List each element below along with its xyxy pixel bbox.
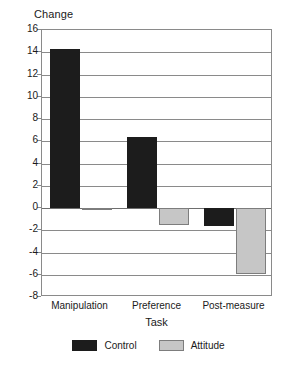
y-axis-tick-label: -8	[4, 291, 38, 301]
y-axis-title: Change	[34, 8, 73, 20]
y-axis-tick-label: -6	[4, 269, 38, 279]
x-axis-tick-label: Preference	[132, 300, 181, 312]
legend-item-control: Control	[72, 340, 136, 351]
bar-control-manipulation	[50, 49, 80, 208]
y-axis-tick-label: 10	[4, 91, 38, 101]
x-axis-tick-label: Manipulation	[51, 300, 108, 312]
y-axis-tick-label: 0	[4, 202, 38, 212]
chart-legend: ControlAttitude	[0, 340, 297, 351]
bar-attitude-manipulation	[82, 208, 112, 210]
legend-item-attitude: Attitude	[159, 340, 225, 351]
y-axis-tick-label: 12	[4, 69, 38, 79]
legend-label: Control	[104, 340, 136, 351]
y-axis-tick-label: 4	[4, 158, 38, 168]
bar-control-post-measure	[204, 208, 234, 226]
x-axis-tick-label: Post-measure	[202, 300, 264, 312]
y-axis-tick-label: 14	[4, 46, 38, 56]
y-axis-tick-label: -2	[4, 224, 38, 234]
y-axis-tick-label: 2	[4, 180, 38, 190]
bar-group-container	[42, 30, 271, 295]
legend-swatch-control	[72, 340, 97, 351]
y-axis-tick-label: 8	[4, 113, 38, 123]
y-axis-tick-label: -4	[4, 247, 38, 257]
y-axis-tick-label: 16	[4, 24, 38, 34]
x-axis-tick-labels: ManipulationPreferencePost-measure	[41, 300, 272, 316]
bar-chart-figure: Change 1614121086420-2-4-6-8 Manipulatio…	[0, 0, 297, 365]
y-axis-tick-labels: 1614121086420-2-4-6-8	[0, 29, 38, 296]
legend-label: Attitude	[191, 340, 225, 351]
bar-control-preference	[127, 137, 157, 208]
bar-attitude-preference	[159, 208, 189, 225]
x-axis-title: Task	[41, 316, 272, 329]
plot-area	[41, 29, 272, 296]
bar-attitude-post-measure	[236, 208, 266, 274]
y-axis-tick-label: 6	[4, 135, 38, 145]
legend-swatch-attitude	[159, 340, 184, 351]
